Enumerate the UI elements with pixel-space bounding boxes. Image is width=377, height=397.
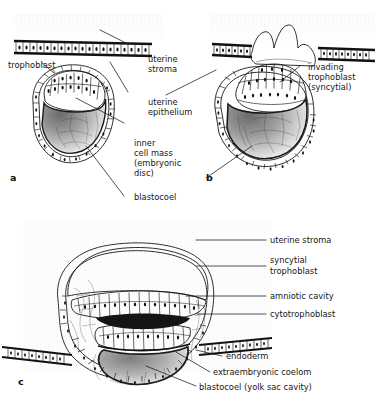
panel-b: b	[206, 14, 375, 183]
implantation-figure: a	[0, 0, 377, 397]
label-endoderm: endoderm	[226, 351, 268, 361]
blastocyst-a	[33, 65, 115, 163]
label-invading-trophoblast-line2: trophoblast	[308, 72, 356, 82]
label-uterine-stroma-line2: stroma	[148, 64, 177, 74]
leader-uterine-epithelium-a	[110, 62, 128, 92]
leader-blastocoel-a	[86, 146, 124, 196]
uterine-epithelium-left-b	[212, 44, 252, 57]
uterine-epithelium-band-a	[14, 41, 152, 56]
label-trophoblast: trophoblast	[8, 60, 56, 70]
label-inner-cell-mass-line4: disc)	[134, 168, 154, 178]
uterine-epithelium-right-b	[318, 48, 375, 61]
label-inner-cell-mass-line3: (embryonic	[134, 158, 182, 168]
blastocyst-b	[215, 64, 316, 171]
label-cytotrophoblast: cytotrophoblast	[270, 309, 336, 319]
label-inner-cell-mass-line2: cell mass	[134, 148, 173, 158]
label-invading-trophoblast-line3: (syncytial)	[308, 82, 351, 92]
epithelial-nuclei-a	[18, 46, 146, 53]
label-blastocoel: blastocoel	[134, 192, 176, 202]
label-blastocoel-yolk-sac: blastocoel (yolk sac cavity)	[199, 382, 312, 392]
panel-letter-a: a	[10, 172, 16, 183]
uterine-stroma-field-a	[14, 14, 164, 42]
label-invading-trophoblast-line1: invading	[308, 62, 344, 72]
label-extraembryonic-coelom: extraembryonic coelom	[213, 367, 311, 377]
panel-c: c	[2, 222, 272, 387]
label-syncytial-trophoblast-line1: syncytial	[270, 255, 307, 265]
label-uterine-epithelium-line2: epithelium	[148, 107, 192, 117]
label-inner-cell-mass-line1: inner	[134, 138, 156, 148]
label-amniotic-cavity: amniotic cavity	[270, 291, 334, 301]
uterine-stroma-field-b	[210, 14, 375, 44]
label-uterine-stroma-line1: uterine	[148, 54, 178, 64]
label-uterine-stroma-c: uterine stroma	[270, 235, 331, 245]
blastocoel-cavity-b	[227, 99, 307, 159]
label-syncytial-trophoblast-line2: trophoblast	[270, 266, 318, 276]
figure-canvas: a	[0, 0, 377, 397]
label-uterine-epithelium-line1: uterine	[148, 97, 178, 107]
cytotrophoblast-cells-b	[236, 64, 306, 112]
panel-letter-c: c	[18, 376, 24, 387]
